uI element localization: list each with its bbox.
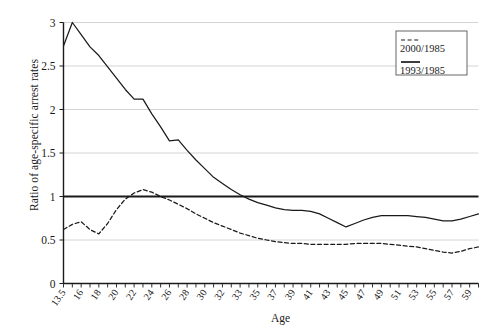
- y-tick-label: 2.5: [41, 60, 56, 72]
- legend-label-2000-1985: 2000/1985: [400, 43, 445, 54]
- x-tick-label: 26: [159, 287, 174, 302]
- y-tick-label: 0: [50, 278, 56, 290]
- series-line-2000-1985: [64, 190, 479, 254]
- x-tick-label: 47: [353, 287, 368, 302]
- y-tick-label: 1: [50, 191, 56, 203]
- x-axis-title: Age: [0, 312, 495, 324]
- x-tick-label: 43: [318, 287, 333, 302]
- x-tick-label: 33: [229, 287, 244, 302]
- chart-legend: 2000/19851993/1985: [396, 31, 467, 76]
- x-tick-label: 35: [247, 287, 262, 302]
- x-tick-label: 37: [265, 287, 280, 302]
- x-tick-label: 49: [371, 287, 386, 302]
- x-tick-label: 32: [212, 287, 227, 302]
- x-tick-label: 18: [88, 287, 103, 302]
- y-tick-label: 2: [50, 104, 56, 116]
- x-tick-label: 13.5: [49, 287, 68, 308]
- x-tick-label: 41: [300, 287, 315, 302]
- chart-container: Ratio of age-specific arrest rates Age 0…: [0, 0, 495, 334]
- x-tick-label: 57: [441, 287, 456, 302]
- x-tick-label: 24: [141, 287, 156, 302]
- x-tick-label: 22: [124, 287, 139, 302]
- x-tick-label: 45: [335, 287, 350, 302]
- x-tick-labels: 13.5161820222426283032333537394143454749…: [49, 287, 474, 308]
- x-tick-label: 20: [106, 287, 121, 302]
- x-tick-label: 59: [459, 287, 474, 302]
- x-tick-label: 30: [194, 287, 209, 302]
- plot-svg: 00.511.522.53 13.51618202224262830323335…: [0, 0, 495, 334]
- x-tick-label: 28: [177, 287, 192, 302]
- y-tick-label: 1.5: [41, 147, 56, 159]
- x-tick-label: 16: [71, 287, 86, 302]
- legend-label-1993-1985: 1993/1985: [400, 65, 445, 76]
- y-tick-label: 3: [50, 17, 56, 29]
- y-axis-title: Ratio of age-specific arrest rates: [28, 5, 40, 265]
- x-tick-label: 39: [282, 287, 297, 302]
- x-tick-label: 53: [406, 287, 421, 302]
- x-tick-label: 51: [388, 287, 403, 302]
- y-tick-label: 0.5: [41, 234, 56, 246]
- y-tick-labels: 00.511.522.53: [41, 17, 56, 290]
- x-tick-label: 55: [424, 287, 439, 302]
